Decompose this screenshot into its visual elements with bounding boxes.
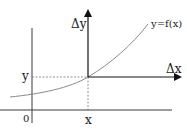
function-label: y=f(x) [150,18,182,29]
y-value-label: y [21,69,29,83]
delta-y-label: Δy [71,17,87,31]
x-value-label: x [85,113,92,127]
delta-x-label: Δx [166,62,182,76]
origin-label: 0 [23,113,29,124]
function-curve [10,24,148,97]
derivative-diagram: Δy Δx y=f(x) y x 0 [0,0,187,132]
